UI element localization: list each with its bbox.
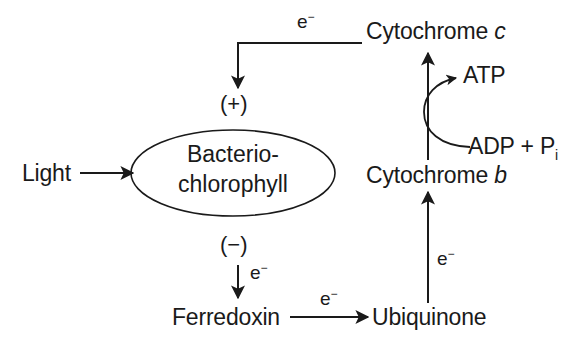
- connector-cytochrome-c-to-plus: [238, 43, 362, 88]
- edge-label-electron-ubiquinone-to-cytb: e−: [437, 249, 455, 269]
- node-atp: ATP: [463, 62, 505, 88]
- node-cytochrome-c: Cytochrome c: [366, 18, 506, 44]
- cytochrome-b-name: Cytochrome: [366, 162, 488, 188]
- cytochrome-c-italic: c: [494, 18, 505, 44]
- node-ubiquinone: Ubiquinone: [372, 304, 486, 330]
- node-light: Light: [22, 160, 71, 186]
- edge-label-electron-ferredoxin-to-ubiquinone: e−: [320, 289, 338, 309]
- cytochrome-b-italic: b: [494, 162, 507, 188]
- electron-uq-cytb-symbol: e: [437, 248, 448, 269]
- node-ferredoxin: Ferredoxin: [172, 304, 280, 330]
- edge-label-electron-to-ferredoxin: e−: [250, 263, 268, 283]
- node-bacteriochlorophyll: Bacterio- chlorophyll: [150, 139, 316, 199]
- adp-pi-subscript: i: [555, 147, 558, 163]
- node-minus-sign: (−): [220, 233, 248, 257]
- electron-top-charge: −: [308, 10, 315, 24]
- edge-label-electron-top: e−: [297, 12, 315, 32]
- electron-fd-uq-symbol: e: [320, 288, 331, 309]
- electron-ferredoxin-symbol: e: [250, 262, 261, 283]
- diagram-canvas: Light Bacterio- chlorophyll (+) (−) Cyto…: [0, 0, 583, 338]
- electron-top-symbol: e: [297, 11, 308, 32]
- electron-fd-uq-charge: −: [331, 287, 338, 301]
- cytochrome-c-name: Cytochrome: [366, 18, 488, 44]
- node-plus-sign: (+): [220, 92, 248, 116]
- node-cytochrome-b: Cytochrome b: [366, 162, 507, 188]
- node-adp-pi: ADP + Pi: [468, 133, 558, 159]
- electron-uq-cytb-charge: −: [448, 247, 455, 261]
- connector-adp-to-atp: [424, 78, 470, 147]
- bacteriochlorophyll-line-1: Bacterio-: [150, 139, 316, 169]
- electron-ferredoxin-charge: −: [261, 261, 268, 275]
- bacteriochlorophyll-line-2: chlorophyll: [150, 169, 316, 199]
- adp-pi-prefix: ADP + P: [468, 133, 555, 159]
